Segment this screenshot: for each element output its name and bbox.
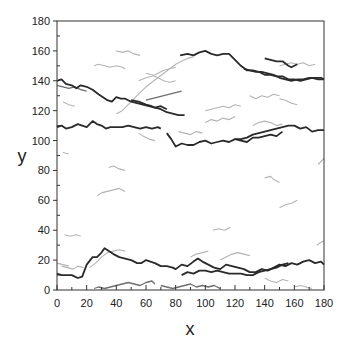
trajectory-25-line	[179, 132, 203, 135]
trajectory-15-line	[116, 57, 193, 114]
y-tick-label: 180	[32, 15, 50, 27]
trajectory-chart: 020406080100120140160180 020406080100120…	[0, 0, 352, 350]
trajectory-2-line	[131, 100, 167, 109]
y-tick-label: 80	[38, 164, 50, 176]
x-tick-label: 80	[170, 297, 182, 309]
y-tick-label: 120	[32, 105, 50, 117]
trajectory-29-line	[109, 166, 125, 170]
trajectory-39-line	[191, 251, 209, 257]
x-tick-label: 160	[285, 297, 303, 309]
y-tick-label: 100	[32, 135, 50, 147]
trajectory-10-line	[182, 263, 289, 275]
light-trajectories	[57, 51, 324, 289]
trajectory-38-line	[220, 253, 250, 261]
trajectory-40-line	[265, 278, 289, 283]
trajectory-33-line	[90, 250, 126, 268]
trajectory-19-line	[116, 51, 140, 56]
x-tick-label: 20	[81, 297, 93, 309]
trajectory-21-line	[139, 133, 155, 141]
trajectory-34-line	[57, 263, 69, 266]
trajectory-44-line	[63, 153, 69, 155]
trajectory-23-line	[205, 117, 235, 123]
trajectory-37-line	[280, 200, 298, 208]
trajectory-12-line	[146, 91, 182, 100]
y-tick-label: 20	[38, 254, 50, 266]
trajectory-43-line	[318, 159, 324, 165]
x-tick-label: 140	[255, 297, 273, 309]
x-axis-ticks: 020406080100120140160180	[54, 285, 333, 309]
y-tick-label: 40	[38, 224, 50, 236]
trajectory-17-line	[146, 73, 176, 82]
trajectory-32-line	[62, 266, 84, 269]
y-tick-label: 160	[32, 45, 50, 57]
dark-trajectories	[57, 51, 324, 278]
y-tick-label: 60	[38, 194, 50, 206]
trajectory-22-line	[205, 105, 241, 111]
trajectory-36-line	[213, 227, 231, 230]
trajectory-24-line	[253, 121, 283, 126]
trajectory-31-line	[64, 235, 80, 237]
x-tick-label: 0	[54, 297, 60, 309]
x-axis-title: x	[186, 319, 195, 339]
trajectory-35-line	[265, 176, 280, 182]
y-tick-label: 0	[44, 284, 50, 296]
y-tick-label: 140	[32, 75, 50, 87]
y-axis-ticks: 020406080100120140160180	[32, 15, 60, 296]
trajectory-26-line	[250, 94, 280, 99]
trajectory-7-line	[167, 126, 324, 147]
trajectory-42-line	[317, 241, 324, 246]
trajectory-18-line	[94, 64, 125, 69]
trajectory-1-line	[57, 79, 185, 115]
trajectory-28-line	[63, 102, 75, 107]
trajectory-27-line	[280, 99, 298, 105]
x-tick-label: 120	[226, 297, 244, 309]
medium-trajectories	[57, 85, 220, 288]
x-tick-label: 40	[110, 297, 122, 309]
trajectory-30-line	[97, 188, 125, 196]
x-tick-label: 60	[140, 297, 152, 309]
trajectory-3-line	[180, 51, 324, 81]
x-tick-label: 100	[196, 297, 214, 309]
x-tick-label: 180	[315, 297, 333, 309]
y-axis-title: y	[18, 146, 27, 166]
trajectory-6-line	[57, 121, 161, 129]
